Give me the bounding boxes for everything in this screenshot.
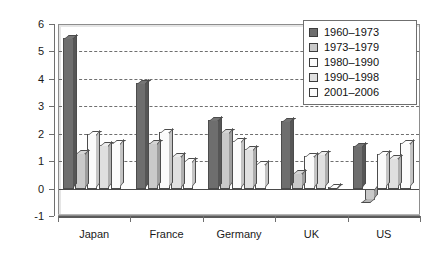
y-axis-tick (49, 216, 54, 217)
x-axis-category-label: France (149, 228, 183, 240)
x-axis-tick (275, 216, 276, 222)
bar-side-face (374, 184, 378, 198)
legend-item-label: 1973–1979 (324, 42, 379, 53)
bar (281, 121, 292, 188)
bar-side-face (96, 130, 100, 188)
bar (365, 189, 376, 200)
bar-side-face (253, 145, 257, 188)
x-axis-category-label: Japan (79, 228, 109, 240)
x-axis-category-label: US (376, 228, 391, 240)
legend-swatch-icon (309, 28, 318, 37)
legend-swatch-icon (309, 58, 318, 67)
bar-side-face (73, 34, 77, 188)
bar (377, 154, 388, 188)
y-axis-line (54, 24, 55, 216)
x-axis-shadow (58, 214, 420, 215)
bar-side-face (145, 79, 149, 188)
x-axis-category-label: Germany (216, 228, 261, 240)
bar-side-face (241, 136, 245, 187)
y-axis-tick-label: 0 (38, 183, 44, 194)
legend-item[interactable]: 1960–1973 (309, 25, 411, 40)
legend-item[interactable]: 1980–1990 (309, 55, 411, 70)
y-axis-tick-label: 4 (38, 73, 44, 84)
bar (136, 83, 147, 189)
legend-item-label: 1990–1998 (324, 72, 379, 83)
legend-item[interactable]: 1990–1998 (309, 70, 411, 85)
x-axis-tick (420, 216, 421, 222)
bar-chart: -10123456 JapanFranceGermanyUKUS 1960–19… (0, 0, 441, 261)
bar-side-face (120, 139, 124, 187)
x-axis-tick (58, 216, 59, 222)
bar-side-face (169, 128, 173, 187)
y-axis-tick-label: 3 (38, 101, 44, 112)
y-axis-tick-label: 1 (38, 156, 44, 167)
x-axis-category-label: UK (304, 228, 319, 240)
x-axis-line (58, 216, 420, 218)
bar (63, 38, 74, 189)
bar-side-face (157, 139, 161, 187)
bar-side-face (181, 152, 185, 188)
legend-swatch-icon (309, 73, 318, 82)
bar (232, 141, 243, 189)
bar-side-face (192, 157, 196, 188)
bar (328, 187, 339, 189)
legend-swatch-icon (309, 43, 318, 52)
y-axis-tick-label: 5 (38, 46, 44, 57)
x-axis-tick (130, 216, 131, 222)
y-axis-tick-label: -1 (34, 211, 44, 222)
bar (148, 143, 159, 188)
bar (99, 145, 110, 189)
y-axis-tick-label: 6 (38, 19, 44, 30)
x-axis-tick (348, 216, 349, 222)
legend-swatch-icon (309, 88, 318, 97)
bar-side-face (85, 149, 89, 188)
bar-side-face (410, 139, 414, 187)
bar-side-face (218, 116, 222, 188)
x-axis-tick (203, 216, 204, 222)
bar-bottom-face (361, 199, 375, 203)
bar-side-face (386, 150, 390, 187)
y-axis-labels: -10123456 (0, 24, 54, 216)
bar-side-face (398, 154, 402, 187)
bar-side-face (108, 141, 112, 188)
bar (353, 146, 364, 189)
bar-side-face (290, 117, 294, 187)
legend-item[interactable]: 2001–2006 (309, 85, 411, 100)
bar (111, 143, 122, 188)
chart-legend[interactable]: 1960–19731973–19791980–19901990–19982001… (303, 20, 417, 105)
bar-side-face (265, 160, 269, 188)
y-axis-tick-label: 2 (38, 128, 44, 139)
bar (208, 120, 219, 189)
legend-item-label: 2001–2006 (324, 87, 379, 98)
bar-side-face (325, 150, 329, 187)
bar-side-face (362, 142, 366, 188)
bar (244, 149, 255, 189)
legend-item[interactable]: 1973–1979 (309, 40, 411, 55)
legend-item-label: 1960–1973 (324, 27, 379, 38)
bar-side-face (314, 152, 318, 188)
bar-side-face (229, 128, 233, 187)
legend-item-label: 1980–1990 (324, 57, 379, 68)
